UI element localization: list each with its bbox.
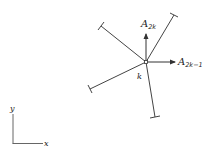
x-axis-label: x: [44, 139, 49, 148]
node-k: [145, 61, 148, 64]
member-upper-right: [146, 13, 178, 62]
coordinate-axes: [13, 114, 44, 144]
label-A2k-1: A2k−1: [177, 56, 203, 69]
y-axis-label: y: [9, 104, 15, 113]
end-tick: [170, 13, 178, 17]
end-tick: [98, 22, 104, 30]
truss-node-diagram: A2k A2k−1 k y x: [0, 0, 208, 155]
member-upper-left: [98, 22, 146, 62]
end-tick: [88, 85, 92, 93]
label-A2k: A2k: [140, 18, 156, 31]
label-node-k: k: [137, 72, 142, 81]
member-bottom: [146, 62, 160, 118]
